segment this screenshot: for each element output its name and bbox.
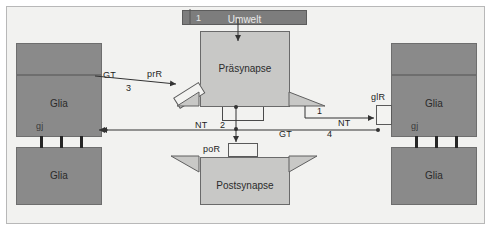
glia-right-lower-block: Glia <box>391 147 477 205</box>
nt-to-postsynapse-transmitter: NT <box>195 121 207 130</box>
nt-to-postsynapse-step: 2 <box>220 121 225 130</box>
gt-from-glia-transmitter: GT <box>279 130 292 139</box>
postsynaptic-receptor <box>228 143 258 157</box>
glia-right-middle-block: Glia gj <box>391 75 477 137</box>
glia-right-lower-label: Glia <box>392 170 476 181</box>
gap-junction-bar-left-1 <box>40 136 43 148</box>
gap-junction-bar-right-3 <box>455 136 458 148</box>
glia-left-lower-label: Glia <box>17 170 101 181</box>
glia-left-lower-block: Glia <box>16 147 102 205</box>
glia-right-label: Glia <box>392 98 476 109</box>
nt-to-glia-step: 1 <box>317 107 322 116</box>
praesynapse-block: Präsynapse <box>200 31 290 107</box>
umwelt-block: Umwelt 1 <box>182 10 307 25</box>
glia-left-upper-block <box>16 43 102 75</box>
postsynapse-block: Postsynapse <box>200 157 290 205</box>
presynaptic-receptor-label: prR <box>147 70 162 79</box>
glial-receptor-label: glR <box>371 93 385 102</box>
gt-to-presynapse-transmitter: GT <box>103 71 116 80</box>
nt-to-glia-transmitter: NT <box>338 119 350 128</box>
postsynaptic-receptor-label: poR <box>203 145 220 154</box>
gap-junction-bar-right-2 <box>435 136 438 148</box>
gap-junction-bar-left-2 <box>60 136 63 148</box>
diagram-canvas: Glia gj Glia Glia gj Glia Umwelt 1 Präs <box>0 0 493 232</box>
glia-right-upper-block <box>391 43 477 75</box>
postsynapse-label: Postsynapse <box>201 180 289 191</box>
gap-junction-bar-left-3 <box>80 136 83 148</box>
diagram-frame: Glia gj Glia Glia gj Glia Umwelt 1 Präs <box>6 6 485 224</box>
transmitter-release-site <box>222 107 264 121</box>
gap-junction-right-label: gj <box>411 122 418 131</box>
praesynapse-label: Präsynapse <box>201 63 289 74</box>
gap-junction-bar-right-1 <box>415 136 418 148</box>
umwelt-label: Umwelt <box>183 14 306 25</box>
glia-left-middle-block: Glia gj <box>16 75 102 137</box>
umwelt-step-tag: 1 <box>196 14 201 23</box>
glia-left-label: Glia <box>17 98 101 109</box>
gap-junction-left-label: gj <box>36 122 43 131</box>
glial-receptor <box>376 105 392 125</box>
gt-to-presynapse-step: 3 <box>126 84 131 93</box>
gt-from-glia-step: 4 <box>327 130 332 139</box>
